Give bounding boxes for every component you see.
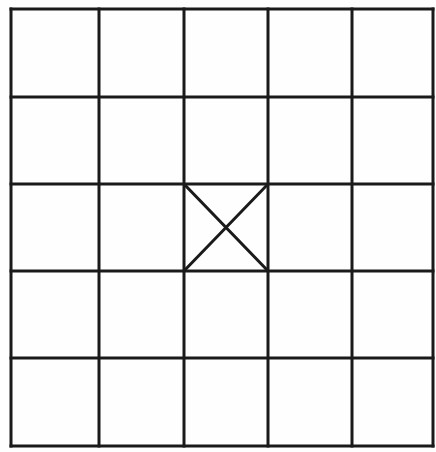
grid-diagram xyxy=(0,0,436,452)
cell-marks xyxy=(184,184,268,271)
grid-lines xyxy=(11,9,433,446)
